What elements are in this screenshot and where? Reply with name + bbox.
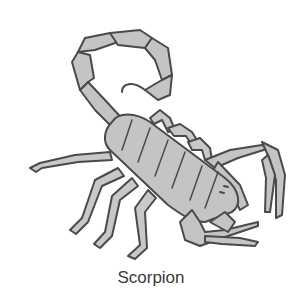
- figure-caption: Scorpion: [0, 268, 302, 288]
- scorpion-illustration: [0, 0, 302, 265]
- claw-left: [180, 210, 258, 246]
